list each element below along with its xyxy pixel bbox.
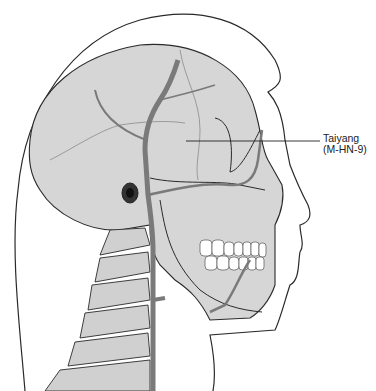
anatomy-figure: Taiyang (M-HN-9) [0,0,376,391]
taiyang-label: Taiyang (M-HN-9) [323,133,367,155]
artery-branch [153,298,165,300]
head-illustration [0,0,376,391]
teeth [200,240,266,270]
cervical-spine [45,228,150,391]
point-code: (M-HN-9) [323,144,367,155]
